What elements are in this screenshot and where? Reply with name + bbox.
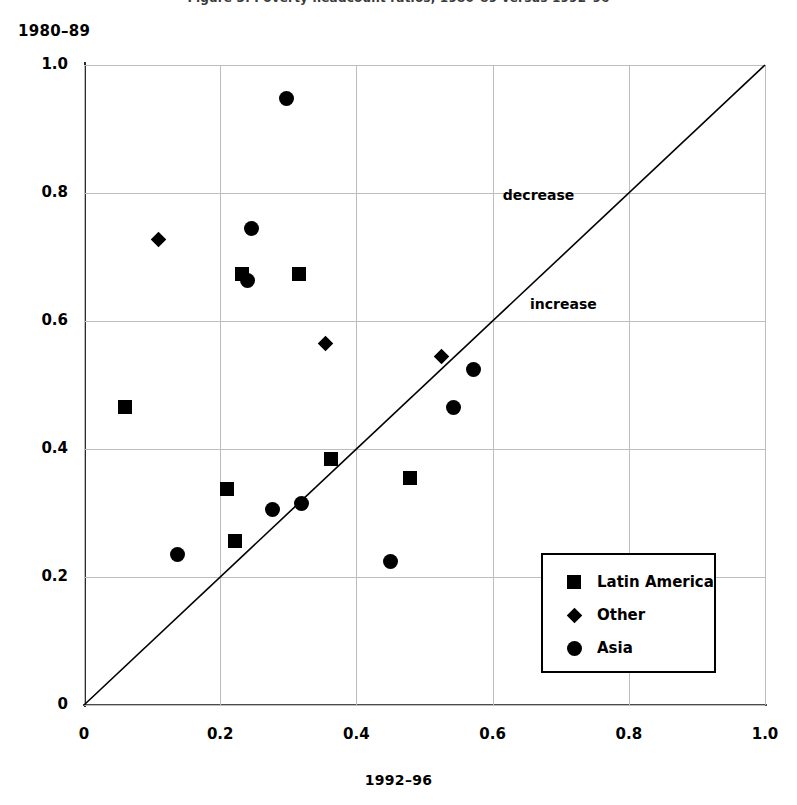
top-caption-sliver: Figure 3. Poverty headcount ratios, 1980… bbox=[0, 0, 797, 5]
data-point-latin-america bbox=[228, 534, 242, 548]
y-axis-tick-label: 0.6 bbox=[8, 311, 68, 329]
data-point-asia bbox=[466, 362, 481, 377]
data-point-latin-america bbox=[118, 400, 132, 414]
square-marker-icon bbox=[561, 575, 587, 589]
legend-item-label: Latin America bbox=[597, 573, 714, 591]
region-annotation-increase: increase bbox=[530, 296, 597, 312]
y-axis-title: 1980–89 bbox=[18, 22, 90, 40]
x-axis-tick-label: 0.6 bbox=[463, 725, 523, 743]
x-axis-tick-label: 0.8 bbox=[599, 725, 659, 743]
data-point-asia bbox=[244, 221, 259, 236]
x-axis-tick-label: 0.4 bbox=[326, 725, 386, 743]
data-point-latin-america bbox=[220, 482, 234, 496]
y-axis-tick-label: 0 bbox=[8, 695, 68, 713]
data-point-asia bbox=[170, 547, 185, 562]
y-axis-tick-label: 0.4 bbox=[8, 439, 68, 457]
legend-item-latin-america[interactable]: Latin America bbox=[561, 569, 714, 595]
data-point-latin-america bbox=[292, 267, 306, 281]
legend: Latin AmericaOtherAsia bbox=[541, 553, 716, 673]
x-axis-tick-label: 0 bbox=[54, 725, 114, 743]
data-point-latin-america bbox=[403, 471, 417, 485]
diamond-marker-icon bbox=[561, 610, 587, 621]
data-point-asia bbox=[383, 554, 398, 569]
legend-item-label: Asia bbox=[597, 639, 633, 657]
y-axis-tick-label: 0.2 bbox=[8, 567, 68, 585]
circle-marker-icon bbox=[561, 641, 587, 656]
data-point-latin-america bbox=[324, 452, 338, 466]
region-annotation-decrease: decrease bbox=[503, 187, 575, 203]
gridline-vertical bbox=[765, 65, 766, 705]
x-axis-tick-label: 1.0 bbox=[735, 725, 795, 743]
y-axis-tick-label: 0.8 bbox=[8, 183, 68, 201]
y-axis-tick-label: 1.0 bbox=[8, 55, 68, 73]
gridline-horizontal bbox=[84, 705, 765, 706]
legend-item-other[interactable]: Other bbox=[561, 602, 645, 628]
legend-item-asia[interactable]: Asia bbox=[561, 635, 633, 661]
x-axis-title: 1992–96 bbox=[0, 772, 797, 788]
x-axis-tick-label: 0.2 bbox=[190, 725, 250, 743]
legend-item-label: Other bbox=[597, 606, 645, 624]
